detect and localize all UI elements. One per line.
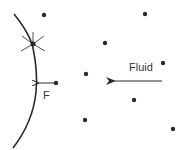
particle (84, 72, 88, 76)
particle (143, 12, 147, 16)
diagram-svg (0, 0, 186, 150)
particles (42, 12, 175, 131)
fluid-label: Fluid (129, 62, 153, 73)
particle (103, 41, 107, 45)
particle (132, 98, 136, 102)
particle (161, 61, 165, 65)
particle (83, 118, 87, 122)
particle (42, 13, 46, 17)
diagram-canvas: Fluid F (0, 0, 186, 150)
force-label: F (43, 90, 50, 101)
particle (171, 127, 175, 131)
